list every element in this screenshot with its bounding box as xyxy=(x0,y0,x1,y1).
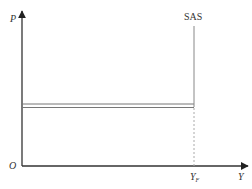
diagram-canvas: P SAS O YF Y xyxy=(0,0,252,189)
sas-label: SAS xyxy=(184,11,202,22)
yf-label-subscript: F xyxy=(195,177,200,183)
origin-label: O xyxy=(9,160,16,171)
y-axis-label: Y xyxy=(238,171,245,182)
yf-label: YF xyxy=(190,171,200,183)
horizontal-price-line xyxy=(22,104,194,108)
p-axis-label: P xyxy=(9,13,16,24)
